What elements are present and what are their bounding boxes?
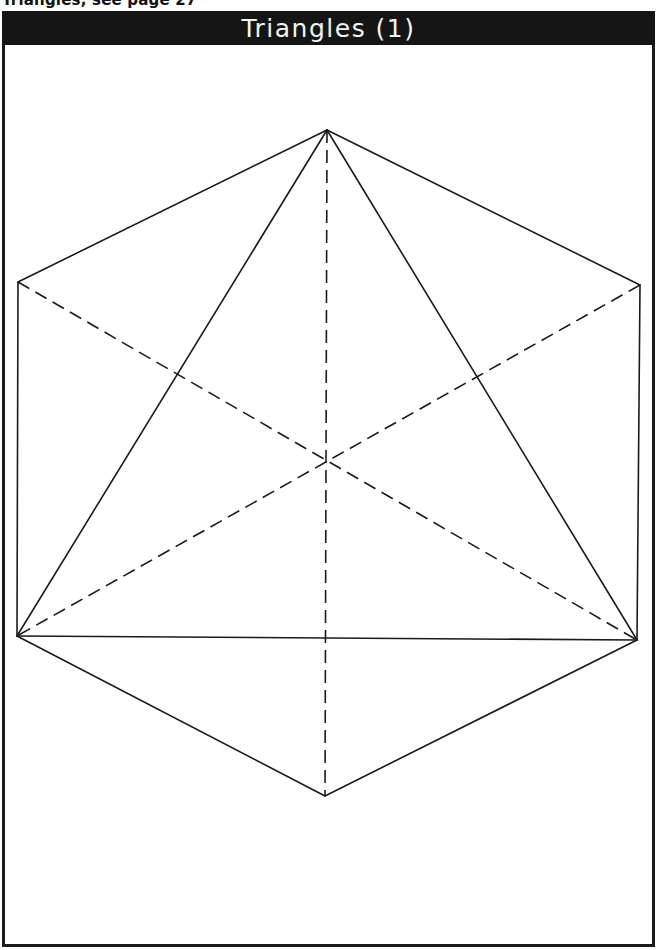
- dashed-diagonals: [17, 130, 640, 796]
- solid-edge-upper_left-lower_left: [17, 282, 18, 636]
- solid-edges: [17, 130, 640, 796]
- dashed-edge-upper_right-lower_left: [17, 285, 640, 636]
- solid-edge-lower_left-lower_right: [17, 636, 637, 640]
- dashed-edge-upper_left-lower_right: [18, 282, 637, 640]
- solid-edge-upper_right-lower_right: [637, 285, 640, 640]
- solid-edge-lower_right-bottom: [325, 640, 637, 796]
- solid-edge-lower_left-bottom: [17, 636, 325, 796]
- hexagon-triangle-diagram: [0, 0, 658, 950]
